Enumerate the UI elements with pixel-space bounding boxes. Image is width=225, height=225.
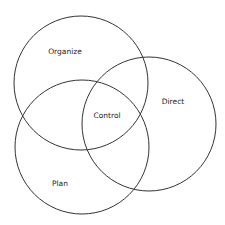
organize-label: Organize [48,47,82,56]
organize-circle [14,16,148,150]
direct-label: Direct [162,97,185,106]
direct-circle [82,57,216,191]
plan-label: Plan [52,179,68,188]
venn-diagram: Organize Direct Plan Control [0,0,225,225]
control-label: Control [93,111,120,120]
plan-circle [15,80,149,214]
